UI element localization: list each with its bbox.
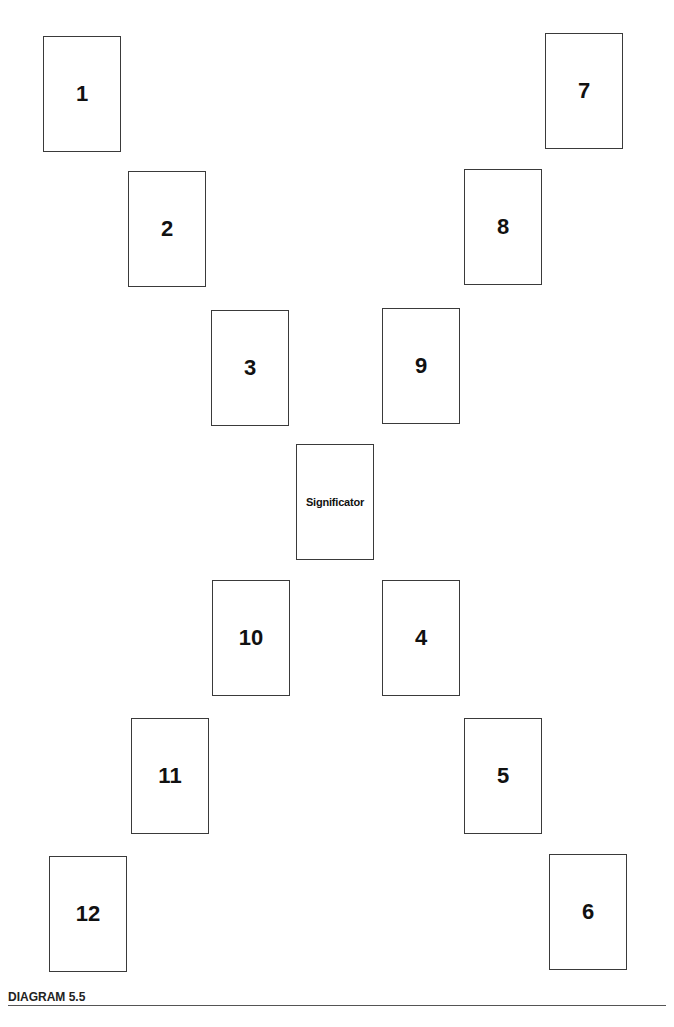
- card-position-10: 10: [212, 580, 290, 696]
- card-position-1: 1: [43, 36, 121, 152]
- card-label: 6: [582, 899, 594, 925]
- card-position-9: 9: [382, 308, 460, 424]
- card-label: 9: [415, 353, 427, 379]
- card-label: 8: [497, 214, 509, 240]
- card-label: 4: [415, 625, 427, 651]
- card-label: 12: [76, 901, 100, 927]
- card-label: 11: [158, 763, 181, 789]
- card-position-4: 4: [382, 580, 460, 696]
- card-position-5: 5: [464, 718, 542, 834]
- diagram-caption: DIAGRAM 5.5: [8, 990, 85, 1004]
- card-position-12: 12: [49, 856, 127, 972]
- card-label: 1: [76, 81, 88, 107]
- card-position-6: 6: [549, 854, 627, 970]
- card-position-7: 7: [545, 33, 623, 149]
- card-label: 10: [239, 625, 263, 651]
- card-position-8: 8: [464, 169, 542, 285]
- card-position-2: 2: [128, 171, 206, 287]
- card-label: 3: [244, 355, 256, 381]
- caption-divider: [8, 1005, 666, 1006]
- card-label: 2: [161, 216, 173, 242]
- card-label: Significator: [306, 496, 364, 508]
- card-significator: Significator: [296, 444, 374, 560]
- card-position-11: 11: [131, 718, 209, 834]
- card-label: 5: [497, 763, 509, 789]
- card-position-3: 3: [211, 310, 289, 426]
- card-label: 7: [578, 78, 590, 104]
